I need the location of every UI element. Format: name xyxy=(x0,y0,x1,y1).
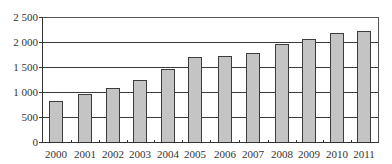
gridline xyxy=(42,117,378,118)
bar-2003 xyxy=(133,80,147,143)
bar-2010 xyxy=(330,33,344,143)
y-tick-label: 500 xyxy=(0,111,38,123)
x-axis xyxy=(42,142,379,143)
bar-chart: 05001 0001 5002 0002 500 200020012002200… xyxy=(0,0,392,164)
y-axis xyxy=(42,17,43,143)
x-tick-label: 2005 xyxy=(178,148,212,160)
y-tick-label: 2 000 xyxy=(0,36,38,48)
x-tick-label: 2011 xyxy=(347,148,381,160)
y-tick-label: 2 500 xyxy=(0,11,38,23)
bar-2004 xyxy=(161,69,175,143)
bar-2011 xyxy=(357,31,371,143)
bar-2005 xyxy=(188,57,202,143)
bar-2007 xyxy=(246,53,260,143)
bar-2009 xyxy=(302,39,316,143)
gridline xyxy=(42,42,378,43)
plot-frame xyxy=(42,17,379,143)
bar-2008 xyxy=(275,44,289,143)
y-tick-label: 0 xyxy=(0,136,38,148)
gridline xyxy=(42,92,378,93)
bar-2002 xyxy=(106,88,120,143)
gridline xyxy=(42,67,378,68)
bar-2006 xyxy=(218,56,232,143)
y-tick-label: 1 500 xyxy=(0,61,38,73)
bar-2000 xyxy=(49,101,63,143)
y-tick-label: 1 000 xyxy=(0,86,38,98)
bar-2001 xyxy=(78,94,92,143)
